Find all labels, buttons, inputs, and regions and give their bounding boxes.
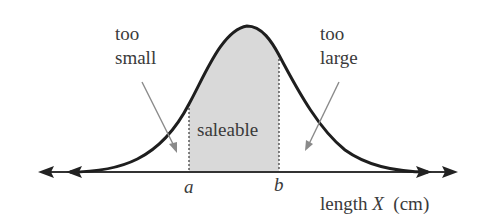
axis-label: length X (cm): [320, 192, 429, 216]
too-large-line2: large: [320, 46, 358, 70]
diagram-canvas: [0, 0, 486, 224]
axis-label-var: X: [372, 193, 384, 214]
axis-label-unit: (cm): [393, 193, 429, 214]
axis-label-prefix: length: [320, 193, 368, 214]
normal-curve-diagram: too small too large saleable a b length …: [0, 0, 486, 224]
saleable-label: saleable: [197, 118, 258, 142]
too-small-line1: too: [115, 22, 156, 46]
saleable-region: [189, 26, 279, 172]
too-small-arrowhead-icon: [169, 142, 177, 153]
too-large-line1: too: [320, 22, 358, 46]
too-small-label: too small: [115, 22, 156, 70]
bound-a-label: a: [184, 175, 194, 199]
bound-b-label: b: [274, 173, 284, 197]
too-large-label: too large: [320, 22, 358, 70]
too-small-pointer: [142, 82, 174, 146]
too-small-line2: small: [115, 46, 156, 70]
too-large-arrowhead-icon: [305, 140, 313, 151]
